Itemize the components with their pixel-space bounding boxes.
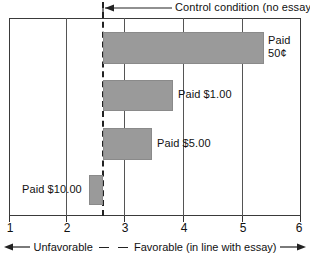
tick-label-4: 4: [181, 221, 188, 236]
caption-dash-left-icon: [99, 247, 109, 248]
caption-favorable: Favorable (in line with essay): [134, 240, 276, 255]
caption-unfavorable: Unfavorable: [34, 240, 93, 255]
tick-label-5: 5: [240, 221, 247, 236]
caption-dash-right-icon: [118, 247, 128, 248]
tick-label-3: 3: [122, 221, 129, 236]
tick-label-6: 6: [296, 221, 303, 236]
left-arrow-icon: [4, 242, 30, 252]
tick-label-1: 1: [7, 221, 14, 236]
bar-label-paid-10-dollars: Paid $10.00: [22, 183, 82, 196]
bar-label-paid-5-dollars: Paid $5.00: [157, 137, 211, 150]
right-arrow-icon: [280, 242, 306, 252]
axis-caption: Unfavorable Favorable (in line with essa…: [0, 239, 310, 255]
bar-paid-50-cents: [103, 32, 264, 64]
bar-paid-1-dollar: [103, 80, 173, 111]
bar-paid-10-dollars: [89, 175, 103, 205]
tick-label-2: 2: [64, 221, 71, 236]
control-condition-annotation: Control condition (no essay): [0, 0, 310, 18]
bar-paid-5-dollars: [103, 128, 152, 160]
bar-label-paid-1-dollar: Paid $1.00: [178, 88, 232, 101]
control-condition-label: Control condition (no essay): [175, 0, 310, 14]
chart-figure: Control condition (no essay) Paid 50¢ Pa…: [0, 0, 310, 259]
bar-label-paid-50-cents: Paid 50¢: [268, 34, 290, 59]
